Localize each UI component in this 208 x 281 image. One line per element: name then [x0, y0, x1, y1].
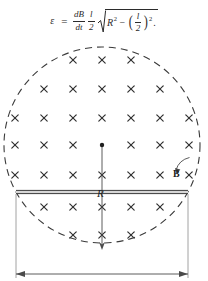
field-into-page-mark — [12, 115, 18, 121]
field-into-page-mark — [41, 115, 47, 121]
field-into-page-mark — [41, 86, 47, 92]
field-into-page-mark — [128, 204, 134, 210]
square-root: R2 − ( l 2 ) 2 . — [98, 9, 158, 34]
field-into-page-mark — [128, 86, 134, 92]
field-into-page-mark — [128, 232, 134, 238]
field-into-page-mark — [99, 86, 105, 92]
dt-denominator: dt — [75, 23, 84, 32]
inner-l-over-2-fraction: l 2 — [135, 12, 142, 34]
field-into-page-mark — [128, 115, 134, 121]
field-into-page-mark — [41, 204, 47, 210]
period: . — [153, 18, 156, 28]
figure-page: ε = dB dt l 2 R2 − — [0, 0, 208, 281]
radical-tick-icon — [98, 9, 105, 34]
equals-sign: = — [61, 16, 67, 27]
R-exponent: 2 — [114, 16, 117, 23]
field-into-page-mark — [186, 142, 192, 148]
close-paren: ) — [143, 16, 147, 28]
field-into-page-mark — [70, 172, 76, 178]
diagram-canvas — [0, 34, 208, 281]
field-into-page-mark — [70, 86, 76, 92]
field-into-page-mark — [186, 115, 192, 121]
field-into-page-mark — [70, 115, 76, 121]
dB-numerator: dB — [73, 10, 85, 19]
field-into-page-mark — [41, 142, 47, 148]
field-into-page-mark — [157, 115, 163, 121]
open-paren: ( — [128, 16, 132, 28]
R-symbol: R — [107, 18, 113, 28]
parenthesized-term: ( l 2 ) 2 — [128, 12, 153, 34]
field-into-page-mark — [70, 57, 76, 63]
field-into-page-mark — [12, 172, 18, 178]
field-into-page-mark — [128, 172, 134, 178]
formula-expression: ε = dB dt l 2 R2 − — [50, 9, 157, 34]
field-into-page-mark — [128, 57, 134, 63]
minus-sign: − — [119, 18, 125, 28]
l-numerator: l — [89, 10, 94, 19]
center-dot — [100, 143, 104, 147]
radius-label: R — [97, 188, 104, 199]
field-into-page-mark — [157, 172, 163, 178]
field-diagram: R B l — [0, 34, 208, 281]
field-into-page-mark — [70, 232, 76, 238]
field-into-page-mark — [70, 142, 76, 148]
field-into-page-mark — [99, 115, 105, 121]
l-over-2-fraction: l 2 — [88, 10, 95, 32]
radicand: R2 − ( l 2 ) 2 . — [105, 9, 158, 34]
field-into-page-mark — [70, 204, 76, 210]
field-into-page-mark — [12, 142, 18, 148]
field-into-page-mark — [99, 57, 105, 63]
field-into-page-mark — [41, 172, 47, 178]
magnetic-field-label: B — [173, 169, 180, 179]
two-denominator: 2 — [88, 23, 95, 32]
field-into-page-mark — [186, 172, 192, 178]
paren-exponent: 2 — [149, 16, 152, 23]
dB-dt-fraction: dB dt — [73, 10, 85, 32]
inner-l-numerator: l — [136, 12, 141, 21]
field-into-page-mark — [128, 142, 134, 148]
emf-formula: ε = dB dt l 2 R2 − — [0, 4, 208, 38]
inner-two-denominator: 2 — [135, 24, 142, 33]
field-into-page-mark — [157, 86, 163, 92]
field-into-page-mark — [157, 142, 163, 148]
emf-symbol: ε — [50, 16, 54, 26]
field-into-page-mark — [157, 204, 163, 210]
